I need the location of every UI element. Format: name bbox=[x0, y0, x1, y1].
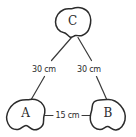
edge-a-b: 15 cm bbox=[44, 111, 92, 120]
triangle-diagram: 30 cm 30 cm 15 cm C A B bbox=[0, 0, 136, 137]
node-b-label: B bbox=[104, 106, 113, 120]
node-c: C bbox=[56, 8, 91, 38]
edge-c-b-label: 30 cm bbox=[77, 65, 101, 74]
edge-c-b-lower-segment bbox=[97, 77, 107, 100]
edge-c-a-lower-segment bbox=[32, 77, 45, 100]
edge-c-b-upper-segment bbox=[78, 38, 92, 61]
node-b: B bbox=[90, 99, 125, 130]
diagram-canvas: 30 cm 30 cm 15 cm C A B bbox=[0, 0, 136, 137]
edge-a-b-label: 15 cm bbox=[56, 111, 80, 120]
node-a: A bbox=[7, 99, 45, 129]
edge-c-a-label: 30 cm bbox=[32, 65, 56, 74]
edge-c-a-upper-segment bbox=[52, 38, 72, 61]
node-c-label: C bbox=[68, 14, 77, 28]
edge-c-a: 30 cm bbox=[32, 38, 72, 100]
edge-c-b: 30 cm bbox=[77, 38, 106, 100]
node-a-label: A bbox=[20, 106, 30, 120]
